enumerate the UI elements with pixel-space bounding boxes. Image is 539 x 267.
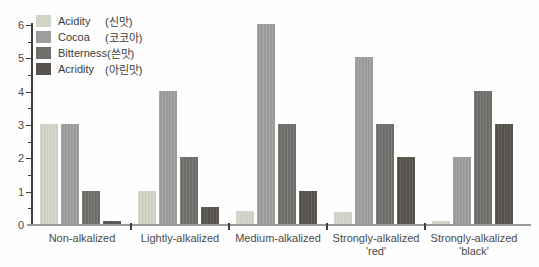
bar-acidity-4: [334, 212, 352, 224]
bar-acidity-5: [432, 221, 450, 224]
bar-acridity-4: [397, 157, 415, 224]
y-minor-tick: [28, 142, 31, 143]
legend-row: Acridity(아린맛): [36, 61, 142, 77]
legend-label: Acidity: [58, 15, 105, 27]
legend-swatch-bitterness: [36, 47, 51, 59]
bar-acidity-3: [236, 211, 254, 224]
y-tick-label: 1: [2, 187, 24, 198]
bar-cocoa-1: [61, 124, 79, 224]
legend-label: Bitterness: [58, 47, 107, 59]
x-boundary-tick: [326, 223, 328, 230]
x-axis: [27, 224, 531, 226]
bar-acridity-3: [299, 191, 317, 224]
bar-cocoa-3: [257, 24, 275, 224]
legend-label: Cocoa: [58, 31, 105, 43]
x-category-label-line1: Strongly-alkalized: [425, 232, 523, 245]
y-tick-label: 2: [2, 153, 24, 164]
x-category-label: Strongly-alkalized'red': [327, 232, 425, 258]
legend-row: Cocoa(코코아): [36, 29, 142, 45]
x-category-label-line1: Non-alkalized: [33, 232, 131, 245]
x-category-label: Lightly-alkalized: [131, 232, 229, 245]
y-major-tick: [26, 25, 31, 26]
bar-acridity-2: [201, 207, 219, 224]
legend-swatch-cocoa: [36, 31, 51, 43]
y-minor-tick: [28, 175, 31, 176]
legend-swatch-acridity: [36, 63, 51, 75]
legend-swatch-acidity: [36, 15, 51, 27]
legend-label: Acridity: [58, 63, 105, 75]
legend-row: Acidity(신맛): [36, 13, 142, 29]
x-category-label: Medium-alkalized: [229, 232, 327, 245]
y-minor-tick: [28, 42, 31, 43]
y-minor-tick: [28, 208, 31, 209]
bar-bitterness-2: [180, 157, 198, 224]
x-category-label-line1: Lightly-alkalized: [131, 232, 229, 245]
legend: Acidity(신맛)Cocoa(코코아)Bitterness(쓴맛)Acrid…: [36, 13, 142, 77]
bar-acidity-1: [40, 124, 58, 224]
bar-bitterness-3: [278, 124, 296, 224]
y-major-tick: [26, 158, 31, 159]
bar-chart: Acidity(신맛)Cocoa(코코아)Bitterness(쓴맛)Acrid…: [0, 0, 539, 267]
y-tick-label: 0: [2, 220, 24, 231]
x-category-label: Strongly-alkalized'black': [425, 232, 523, 258]
y-tick-label: 5: [2, 53, 24, 64]
bar-bitterness-5: [474, 91, 492, 224]
y-tick-label: 4: [2, 87, 24, 98]
y-major-tick: [26, 192, 31, 193]
legend-label-korean: (쓴맛): [107, 45, 134, 61]
legend-row: Bitterness(쓴맛): [36, 45, 142, 61]
x-boundary-tick: [424, 223, 426, 230]
legend-label-korean: (코코아): [105, 29, 142, 45]
bar-bitterness-4: [376, 124, 394, 224]
bar-cocoa-4: [355, 57, 373, 224]
bar-bitterness-1: [82, 191, 100, 224]
bar-acridity-1: [103, 221, 121, 224]
y-major-tick: [26, 92, 31, 93]
x-boundary-tick: [228, 223, 230, 230]
y-major-tick: [26, 125, 31, 126]
x-category-label: Non-alkalized: [33, 232, 131, 245]
y-axis: [31, 23, 33, 226]
x-category-label-line1: Medium-alkalized: [229, 232, 327, 245]
x-category-label-line1: Strongly-alkalized: [327, 232, 425, 245]
bar-acridity-5: [495, 124, 513, 224]
y-minor-tick: [28, 108, 31, 109]
y-tick-label: 3: [2, 120, 24, 131]
bar-cocoa-5: [453, 157, 471, 224]
legend-label-korean: (신맛): [105, 13, 132, 29]
bar-cocoa-2: [159, 91, 177, 224]
bar-acidity-2: [138, 191, 156, 224]
legend-label-korean: (아린맛): [105, 61, 142, 77]
y-tick-label: 6: [2, 20, 24, 31]
x-boundary-tick: [130, 223, 132, 230]
y-minor-tick: [28, 75, 31, 76]
x-category-label-line2: 'black': [425, 245, 523, 258]
x-category-label-line2: 'red': [327, 245, 425, 258]
y-major-tick: [26, 58, 31, 59]
